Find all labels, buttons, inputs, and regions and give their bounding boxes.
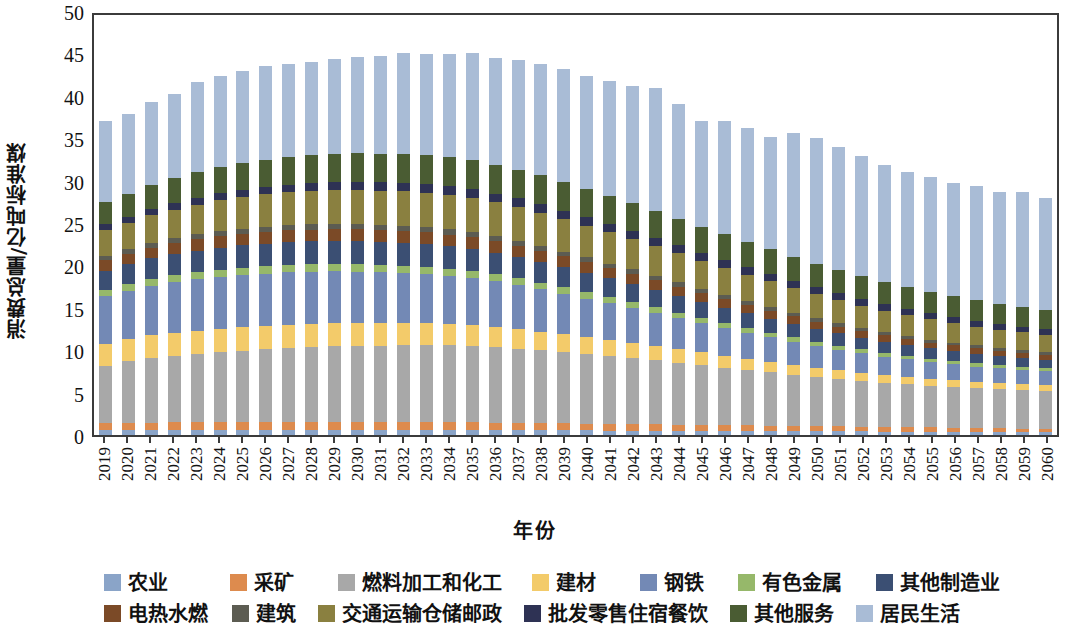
legend-item-钢铁[interactable]: 钢铁 (640, 573, 704, 593)
bar-segment-交通运输仓储邮政 (924, 319, 937, 339)
x-axis-tick-mark (379, 437, 381, 443)
bar-segment-建材 (351, 323, 364, 346)
bar-segment-其他制造业 (626, 284, 639, 302)
bar-segment-居民生活 (534, 64, 547, 176)
bar-segment-钢铁 (970, 367, 983, 382)
bar-segment-燃料加工和化工 (580, 354, 593, 424)
bar-segment-农业 (901, 432, 914, 435)
bar-segment-电热水燃 (534, 251, 547, 262)
bar-segment-交通运输仓储邮政 (397, 191, 410, 225)
bar-segment-农业 (397, 430, 410, 435)
bar-2028 (305, 62, 318, 435)
bar-segment-电热水燃 (214, 236, 227, 247)
legend-item-居民生活[interactable]: 居民生活 (856, 604, 960, 624)
bar-2046 (718, 121, 731, 435)
legend-item-建筑[interactable]: 建筑 (232, 604, 296, 624)
x-axis-tick-mark (425, 437, 427, 443)
x-axis-tick-label: 2024 (210, 447, 230, 481)
bar-2054 (901, 172, 914, 435)
bar-segment-燃料加工和化工 (649, 360, 662, 424)
bar-segment-钢铁 (695, 323, 708, 352)
bar-segment-有色金属 (259, 266, 272, 273)
bar-segment-电热水燃 (649, 280, 662, 290)
bar-segment-燃料加工和化工 (99, 366, 112, 423)
x-axis-tick-mark (862, 437, 864, 443)
x-axis-tick-mark (632, 437, 634, 443)
bar-2043 (649, 88, 662, 435)
bar-segment-钢铁 (993, 368, 1006, 382)
legend-swatch-icon (104, 574, 121, 591)
legend-item-批发零售住宿餐饮[interactable]: 批发零售住宿餐饮 (524, 604, 708, 624)
bar-2040 (580, 76, 593, 435)
bar-segment-农业 (1016, 432, 1029, 435)
x-axis-tick-mark (402, 437, 404, 443)
bar-segment-燃料加工和化工 (466, 346, 479, 422)
bar-segment-采矿 (603, 424, 616, 431)
bar-segment-有色金属 (489, 274, 502, 281)
bar-segment-农业 (855, 431, 868, 435)
bar-segment-居民生活 (649, 88, 662, 211)
x-axis-tick-label: 2023 (187, 447, 207, 481)
bar-segment-燃料加工和化工 (557, 352, 570, 423)
bar-segment-电热水燃 (810, 322, 823, 329)
bar-segment-农业 (534, 430, 547, 435)
bar-segment-居民生活 (397, 53, 410, 153)
bar-segment-其他服务 (420, 155, 433, 184)
bar-segment-居民生活 (810, 138, 823, 263)
bar-segment-其他制造业 (1039, 360, 1052, 369)
y-axis-tick-label: 0 (38, 427, 84, 447)
bar-segment-采矿 (168, 422, 181, 430)
bar-segment-其他服务 (191, 172, 204, 197)
bar-segment-居民生活 (443, 54, 456, 158)
legend-item-交通运输仓储邮政[interactable]: 交通运输仓储邮政 (318, 604, 502, 624)
x-axis-tick-mark (517, 437, 519, 443)
bar-segment-其他服务 (810, 264, 823, 288)
legend-item-采矿[interactable]: 采矿 (230, 573, 294, 593)
bar-segment-批发零售住宿餐饮 (466, 189, 479, 198)
bar-segment-采矿 (214, 422, 227, 430)
legend-item-有色金属[interactable]: 有色金属 (738, 573, 842, 593)
legend-item-燃料加工和化工[interactable]: 燃料加工和化工 (338, 573, 502, 593)
x-axis-tick-mark (310, 437, 312, 443)
bar-segment-农业 (718, 431, 731, 435)
bar-segment-其他服务 (603, 196, 616, 224)
bar-segment-其他制造业 (901, 345, 914, 356)
legend-item-其他服务[interactable]: 其他服务 (730, 604, 834, 624)
bar-2058 (993, 192, 1006, 435)
bar-segment-采矿 (236, 422, 249, 430)
bar-segment-其他服务 (947, 296, 960, 317)
bar-segment-批发零售住宿餐饮 (328, 182, 341, 190)
bar-segment-批发零售住宿餐饮 (420, 184, 433, 193)
bar-segment-居民生活 (901, 172, 914, 287)
legend-item-建材[interactable]: 建材 (532, 573, 596, 593)
bar-segment-批发零售住宿餐饮 (764, 274, 777, 281)
bar-segment-采矿 (282, 422, 295, 430)
bar-segment-其他服务 (534, 175, 547, 204)
bar-segment-建材 (787, 365, 800, 375)
legend-item-其他制造业[interactable]: 其他制造业 (876, 573, 1000, 593)
bar-segment-建材 (214, 329, 227, 352)
bar-segment-交通运输仓储邮政 (649, 246, 662, 276)
bar-segment-电热水燃 (466, 237, 479, 249)
bar-segment-居民生活 (420, 54, 433, 155)
y-axis-tick-label: 30 (38, 173, 84, 193)
bar-segment-其他服务 (351, 153, 364, 181)
bar-segment-交通运输仓储邮政 (947, 323, 960, 343)
bar-segment-交通运输仓储邮政 (603, 232, 616, 263)
bar-segment-农业 (305, 430, 318, 435)
bar-segment-批发零售住宿餐饮 (672, 245, 685, 253)
bar-segment-钢铁 (236, 275, 249, 327)
x-axis-tick-mark (126, 437, 128, 443)
x-axis-tick-mark (356, 437, 358, 443)
legend-item-农业[interactable]: 农业 (104, 573, 168, 593)
legend-item-电热水燃[interactable]: 电热水燃 (104, 604, 208, 624)
x-axis-tick-mark (701, 437, 703, 443)
bar-segment-批发零售住宿餐饮 (855, 299, 868, 306)
x-axis-tick-mark (586, 437, 588, 443)
bar-segment-其他制造业 (787, 324, 800, 337)
x-axis-tick-mark (724, 437, 726, 443)
bar-segment-农业 (580, 430, 593, 435)
bar-segment-电热水燃 (145, 248, 158, 259)
bar-segment-农业 (787, 431, 800, 435)
bar-segment-采矿 (351, 422, 364, 430)
